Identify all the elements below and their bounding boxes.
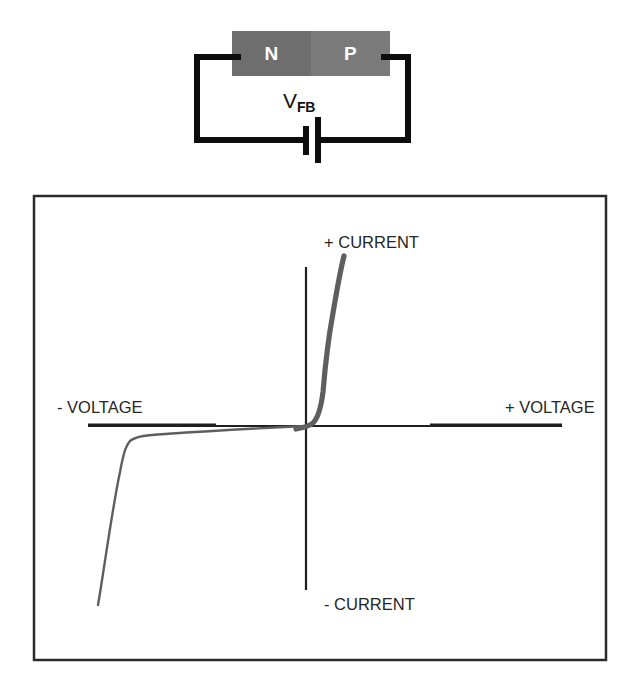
axis-label-negative-voltage: - VOLTAGE bbox=[57, 399, 143, 416]
axis-label-positive-voltage: + VOLTAGE bbox=[505, 399, 595, 416]
axis-label-positive-current: + CURRENT bbox=[324, 234, 419, 251]
iv-characteristic-graph: + CURRENT - CURRENT - VOLTAGE + VOLTAGE bbox=[0, 0, 636, 687]
axis-label-negative-current: - CURRENT bbox=[324, 596, 415, 613]
graph-border bbox=[34, 196, 606, 660]
graph-svg bbox=[0, 0, 636, 687]
figure-root: N P VFB + CURRENT - CURRENT - VOLTAGE + … bbox=[0, 0, 636, 687]
